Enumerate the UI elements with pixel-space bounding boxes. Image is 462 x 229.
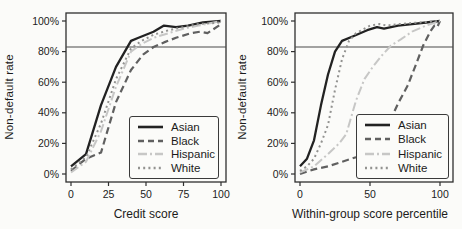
credit-score-chart-panel: 0%20%40%60%80%100%0255075100 Non-default…	[0, 0, 231, 229]
y-tick-label: 0%	[44, 168, 59, 180]
x-tick-label: 100	[431, 188, 449, 200]
y-tick-label: 60%	[38, 76, 59, 88]
black-line-sample-icon	[137, 136, 164, 146]
x-axis-title-left: Credit score	[114, 207, 179, 221]
y-tick-label: 40%	[267, 106, 288, 118]
legend-right: Asian Black Hispanic White	[356, 114, 449, 179]
white-line-sample-icon	[364, 163, 391, 173]
y-tick-label: 80%	[267, 45, 288, 57]
legend-label-asian: Asian	[171, 121, 200, 133]
x-tick-label: 0	[297, 188, 303, 200]
legend-item-black: Black	[137, 134, 214, 148]
y-tick-label: 100%	[32, 15, 59, 27]
y-tick-label: 20%	[267, 137, 288, 149]
legend-label-white: White	[171, 162, 200, 174]
legend-label-white: White	[398, 162, 427, 174]
y-tick-label: 100%	[261, 15, 288, 27]
credit-score-plot: 0%20%40%60%80%100%0255075100	[0, 0, 231, 229]
y-tick-label: 40%	[38, 106, 59, 118]
legend-label-hispanic: Hispanic	[171, 148, 215, 160]
legend-item-asian: Asian	[137, 120, 214, 134]
y-tick-label: 20%	[38, 137, 59, 149]
black-line-sample-icon	[364, 134, 391, 144]
legend-label-black: Black	[398, 133, 426, 145]
x-tick-label: 25	[103, 188, 115, 200]
percentile-chart-panel: 0%20%40%60%80%100%050100 Non-default rat…	[231, 0, 462, 229]
x-tick-label: 50	[364, 188, 376, 200]
legend-label-asian: Asian	[398, 119, 427, 131]
y-tick-label: 80%	[38, 45, 59, 57]
x-tick-label: 50	[140, 188, 152, 200]
legend-item-hispanic: Hispanic	[364, 147, 444, 161]
dual-line-chart-figure: 0%20%40%60%80%100%0255075100 Non-default…	[0, 0, 462, 229]
legend-item-black: Black	[364, 132, 444, 146]
legend-item-hispanic: Hispanic	[137, 148, 214, 162]
hispanic-line-sample-icon	[137, 149, 164, 159]
asian-line-sample-icon	[137, 122, 164, 132]
legend-label-black: Black	[171, 135, 199, 147]
y-tick-label: 60%	[267, 76, 288, 88]
asian-line-sample-icon	[364, 120, 391, 130]
y-axis-title-left: Non-default rate	[3, 54, 15, 140]
hispanic-line-sample-icon	[364, 149, 391, 159]
y-tick-label: 0%	[273, 168, 288, 180]
x-tick-label: 100	[212, 188, 230, 200]
legend-item-asian: Asian	[364, 118, 444, 132]
y-axis-title-right: Non-default rate	[236, 54, 248, 140]
legend-item-white: White	[364, 161, 444, 175]
x-tick-label: 75	[178, 188, 190, 200]
x-tick-label: 0	[68, 188, 74, 200]
legend-left: Asian Black Hispanic White	[129, 116, 219, 179]
legend-item-white: White	[137, 161, 214, 175]
white-line-sample-icon	[137, 163, 164, 173]
x-axis-title-right: Within-group score percentile	[292, 207, 448, 221]
legend-label-hispanic: Hispanic	[398, 148, 442, 160]
